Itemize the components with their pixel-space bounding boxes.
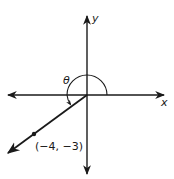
x-axis-label: x: [160, 96, 168, 109]
coordinate-plane-diagram: y x θ (−4, −3): [0, 0, 174, 179]
terminal-point-label: (−4, −3): [35, 140, 83, 153]
angle-theta-label: θ: [63, 74, 70, 87]
terminal-point-dot: [32, 132, 36, 136]
y-axis-label: y: [91, 12, 99, 25]
